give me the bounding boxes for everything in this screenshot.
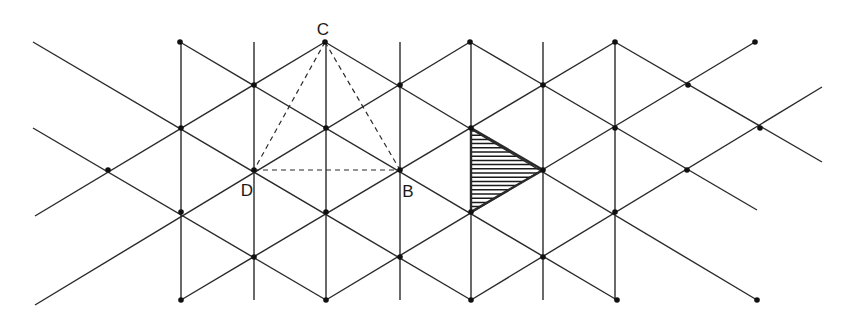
lattice-point <box>178 125 184 131</box>
lattice-point <box>467 39 473 45</box>
lattice-point <box>322 39 328 45</box>
lattice-point <box>397 82 403 88</box>
lattice-lines <box>33 42 822 305</box>
shaded-triangle-outline <box>471 128 543 212</box>
lattice-point <box>468 209 474 215</box>
lattice-point <box>251 254 257 260</box>
lattice-point <box>251 167 257 173</box>
lattice-point <box>468 297 474 303</box>
lattice-point <box>754 297 760 303</box>
lattice-point <box>757 125 763 131</box>
label-c: C <box>317 21 329 38</box>
lattice-point <box>752 39 758 45</box>
lattice-point <box>251 82 257 88</box>
lattice-point <box>397 254 403 260</box>
lattice-point <box>612 39 618 45</box>
lattice-diagram: C D B <box>0 0 846 318</box>
shaded-triangle <box>471 128 543 212</box>
lattice-point <box>684 167 690 173</box>
lattice-point <box>177 39 183 45</box>
label-d: D <box>241 182 253 199</box>
lattice-point <box>614 297 620 303</box>
diagonal-line <box>471 87 822 300</box>
lattice-point <box>468 125 474 131</box>
lattice-point <box>105 167 111 173</box>
lattice-point <box>540 167 546 173</box>
lattice-point <box>540 254 546 260</box>
lattice-point <box>540 82 546 88</box>
lattice-points <box>105 39 763 303</box>
lattice-svg <box>0 0 846 318</box>
label-b: B <box>402 183 413 200</box>
dashed-edge <box>325 42 400 170</box>
lattice-point <box>612 125 618 131</box>
lattice-point <box>178 297 184 303</box>
lattice-point <box>612 209 618 215</box>
dashed-triangle-dbc <box>254 42 400 170</box>
lattice-point <box>397 167 403 173</box>
lattice-point <box>685 82 691 88</box>
lattice-point <box>178 209 184 215</box>
diagonal-line <box>615 42 822 162</box>
lattice-point <box>323 125 329 131</box>
lattice-point <box>323 297 329 303</box>
lattice-point <box>323 209 329 215</box>
